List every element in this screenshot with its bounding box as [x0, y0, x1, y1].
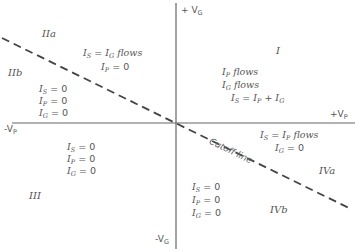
minus-vp-label: -VP — [4, 124, 17, 136]
region-label-IVb: IVb — [270, 204, 288, 215]
region-IIa-is-ig-flows: IS = IG flows — [83, 47, 142, 62]
region-label-IIa: IIa — [42, 28, 56, 39]
region-IIa-ip-zero: IP = 0 — [101, 61, 129, 76]
region-III-ig-zero: IG = 0 — [67, 165, 96, 180]
region-IIb-ig-zero: IG = 0 — [39, 107, 68, 122]
plus-vg-label: + VG — [181, 5, 203, 17]
plus-vp-label: +VP — [330, 109, 348, 121]
region-IVb-ig-zero: IG = 0 — [192, 207, 221, 222]
region-label-IIb: IIb — [8, 67, 22, 78]
operating-regions-diagram: + VG -VG +VP -VP Cutoff line I IIa IIb I… — [0, 0, 355, 249]
region-label-I: I — [276, 45, 280, 56]
region-IVa-ig-zero: IG = 0 — [275, 142, 304, 157]
region-label-IVa: IVa — [319, 165, 335, 176]
minus-vg-label: -VG — [155, 234, 169, 246]
region-I-is-sum: IS = IP + IG — [231, 92, 284, 107]
region-label-III: III — [29, 190, 41, 201]
